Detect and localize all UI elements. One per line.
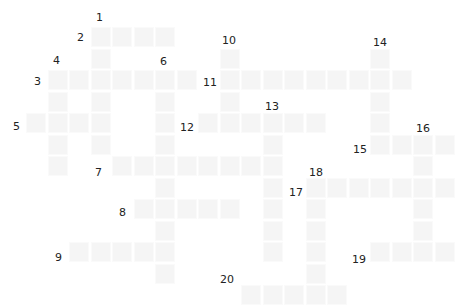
grid-cell[interactable] (198, 199, 218, 219)
grid-cell[interactable] (370, 70, 390, 90)
grid-cell[interactable] (48, 156, 68, 176)
grid-cell[interactable] (263, 199, 283, 219)
grid-cell[interactable] (220, 49, 240, 69)
grid-cell[interactable] (155, 264, 175, 284)
grid-cell[interactable] (263, 135, 283, 155)
grid-cell[interactable] (198, 156, 218, 176)
grid-cell[interactable] (69, 242, 89, 262)
grid-cell[interactable] (327, 285, 347, 305)
grid-cell[interactable] (134, 70, 154, 90)
grid-cell[interactable] (392, 178, 412, 198)
grid-cell[interactable] (220, 92, 240, 112)
grid-cell[interactable] (284, 113, 304, 133)
grid-cell[interactable] (435, 242, 455, 262)
grid-cell[interactable] (220, 70, 240, 90)
grid-cell[interactable] (91, 27, 111, 47)
clue-number-18: 18 (309, 167, 323, 178)
grid-cell[interactable] (220, 113, 240, 133)
grid-cell[interactable] (392, 70, 412, 90)
grid-cell[interactable] (91, 242, 111, 262)
grid-cell[interactable] (134, 156, 154, 176)
grid-cell[interactable] (263, 178, 283, 198)
grid-cell[interactable] (263, 156, 283, 176)
grid-cell[interactable] (392, 242, 412, 262)
grid-cell[interactable] (413, 178, 433, 198)
grid-cell[interactable] (198, 113, 218, 133)
grid-cell[interactable] (370, 242, 390, 262)
grid-cell[interactable] (134, 27, 154, 47)
grid-cell[interactable] (91, 49, 111, 69)
grid-cell[interactable] (134, 242, 154, 262)
grid-cell[interactable] (91, 92, 111, 112)
grid-cell[interactable] (134, 199, 154, 219)
grid-cell[interactable] (155, 70, 175, 90)
grid-cell[interactable] (349, 70, 369, 90)
grid-cell[interactable] (306, 221, 326, 241)
grid-cell[interactable] (177, 156, 197, 176)
grid-cell[interactable] (306, 199, 326, 219)
grid-cell[interactable] (413, 199, 433, 219)
grid-cell[interactable] (48, 70, 68, 90)
grid-cell[interactable] (263, 70, 283, 90)
grid-cell[interactable] (349, 178, 369, 198)
grid-cell[interactable] (306, 113, 326, 133)
grid-cell[interactable] (112, 27, 132, 47)
grid-cell[interactable] (69, 113, 89, 133)
grid-cell[interactable] (177, 199, 197, 219)
grid-cell[interactable] (435, 135, 455, 155)
grid-cell[interactable] (306, 70, 326, 90)
grid-cell[interactable] (112, 156, 132, 176)
grid-cell[interactable] (48, 92, 68, 112)
grid-cell[interactable] (241, 113, 261, 133)
grid-cell[interactable] (413, 135, 433, 155)
grid-cell[interactable] (69, 70, 89, 90)
grid-cell[interactable] (263, 113, 283, 133)
grid-cell[interactable] (263, 285, 283, 305)
grid-cell[interactable] (91, 135, 111, 155)
grid-cell[interactable] (155, 178, 175, 198)
grid-cell[interactable] (370, 178, 390, 198)
grid-cell[interactable] (155, 156, 175, 176)
grid-cell[interactable] (26, 113, 46, 133)
grid-cell[interactable] (306, 242, 326, 262)
grid-cell[interactable] (370, 92, 390, 112)
grid-cell[interactable] (284, 70, 304, 90)
grid-cell[interactable] (155, 199, 175, 219)
grid-cell[interactable] (263, 221, 283, 241)
grid-cell[interactable] (306, 285, 326, 305)
grid-cell[interactable] (435, 178, 455, 198)
grid-cell[interactable] (327, 178, 347, 198)
grid-cell[interactable] (413, 221, 433, 241)
grid-cell[interactable] (48, 113, 68, 133)
clue-number-6: 6 (160, 56, 167, 67)
grid-cell[interactable] (241, 285, 261, 305)
grid-cell[interactable] (370, 135, 390, 155)
grid-cell[interactable] (155, 135, 175, 155)
grid-cell[interactable] (370, 49, 390, 69)
grid-cell[interactable] (241, 156, 261, 176)
grid-cell[interactable] (220, 156, 240, 176)
grid-cell[interactable] (91, 113, 111, 133)
grid-cell[interactable] (306, 264, 326, 284)
grid-cell[interactable] (370, 113, 390, 133)
clue-number-4: 4 (53, 55, 60, 66)
grid-cell[interactable] (112, 70, 132, 90)
grid-cell[interactable] (241, 70, 261, 90)
grid-cell[interactable] (155, 27, 175, 47)
grid-cell[interactable] (155, 113, 175, 133)
grid-cell[interactable] (155, 221, 175, 241)
grid-cell[interactable] (48, 135, 68, 155)
grid-cell[interactable] (263, 242, 283, 262)
grid-cell[interactable] (220, 199, 240, 219)
grid-cell[interactable] (177, 70, 197, 90)
grid-cell[interactable] (413, 242, 433, 262)
grid-cell[interactable] (327, 70, 347, 90)
grid-cell[interactable] (112, 242, 132, 262)
grid-cell[interactable] (155, 242, 175, 262)
grid-cell[interactable] (306, 178, 326, 198)
grid-cell[interactable] (413, 156, 433, 176)
grid-cell[interactable] (284, 285, 304, 305)
grid-cell[interactable] (155, 92, 175, 112)
grid-cell[interactable] (392, 135, 412, 155)
grid-cell[interactable] (91, 70, 111, 90)
